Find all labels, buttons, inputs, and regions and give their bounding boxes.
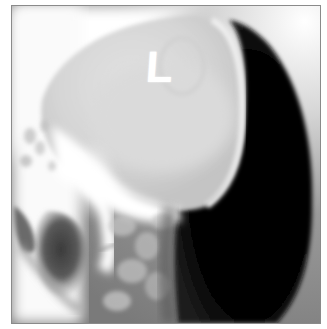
radiograph-frame: L <box>11 5 321 324</box>
side-marker-l: L <box>145 46 172 88</box>
image-canvas: L <box>0 0 327 329</box>
